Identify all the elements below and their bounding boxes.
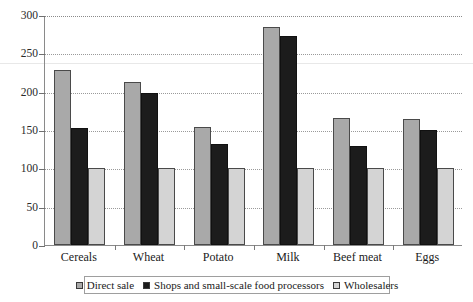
gridline-100 bbox=[45, 169, 462, 170]
bar bbox=[280, 36, 297, 245]
y-tick-label-300: 300 bbox=[4, 10, 38, 22]
legend-label: Direct sale bbox=[87, 280, 134, 291]
bar bbox=[141, 93, 158, 245]
legend-swatch-icon bbox=[76, 282, 83, 289]
bar bbox=[350, 146, 367, 245]
bar-group bbox=[333, 16, 384, 245]
legend-item[interactable]: Shops and small-scale food processors bbox=[143, 280, 324, 291]
bar bbox=[263, 27, 280, 246]
x-tick-label: Cereals bbox=[44, 250, 114, 264]
bar bbox=[71, 128, 88, 245]
bar-group bbox=[54, 16, 105, 245]
y-tick-150 bbox=[39, 131, 45, 132]
y-tick-label-50: 50 bbox=[4, 202, 38, 214]
gridline-150 bbox=[45, 131, 462, 132]
y-tick-label-200: 200 bbox=[4, 87, 38, 99]
y-tick-label-150: 150 bbox=[4, 125, 38, 137]
bar bbox=[333, 118, 350, 245]
y-tick-100 bbox=[39, 169, 45, 170]
bar bbox=[88, 168, 105, 245]
y-tick-label-250: 250 bbox=[4, 48, 38, 60]
x-tick-label: Wheat bbox=[114, 250, 184, 264]
y-tick-label-0: 0 bbox=[4, 240, 38, 252]
plot-area bbox=[44, 16, 462, 246]
bar-group bbox=[124, 16, 175, 245]
bar bbox=[211, 144, 228, 245]
bar-group bbox=[263, 16, 314, 245]
legend-item[interactable]: Wholesalers bbox=[333, 280, 398, 291]
bar bbox=[158, 168, 175, 245]
gridline-200 bbox=[45, 93, 462, 94]
bar bbox=[124, 82, 141, 245]
bar bbox=[228, 168, 245, 245]
bar-chart: 050100150200250300 CerealsWheatPotatoMil… bbox=[0, 0, 473, 302]
y-tick-0 bbox=[39, 246, 45, 247]
gridline-300 bbox=[45, 16, 462, 17]
y-tick-300 bbox=[39, 16, 45, 17]
legend-label: Shops and small-scale food processors bbox=[154, 280, 324, 291]
chart-legend: Direct saleShops and small-scale food pr… bbox=[84, 276, 390, 294]
y-tick-250 bbox=[39, 54, 45, 55]
bar bbox=[437, 168, 454, 245]
bar-group bbox=[403, 16, 454, 245]
legend-item[interactable]: Direct sale bbox=[76, 280, 134, 291]
bar bbox=[367, 168, 384, 245]
gridline-50 bbox=[45, 208, 462, 209]
legend-label: Wholesalers bbox=[344, 280, 398, 291]
x-tick-label: Beef meat bbox=[323, 250, 393, 264]
bar-group bbox=[194, 16, 245, 245]
legend-swatch-icon bbox=[143, 282, 150, 289]
bar bbox=[403, 119, 420, 245]
x-tick-label: Eggs bbox=[392, 250, 462, 264]
x-tick-label: Potato bbox=[183, 250, 253, 264]
bar bbox=[420, 130, 437, 245]
x-tick-label: Milk bbox=[253, 250, 323, 264]
legend-swatch-icon bbox=[333, 282, 340, 289]
plot-inner bbox=[45, 16, 462, 245]
y-tick-label-100: 100 bbox=[4, 163, 38, 175]
x-axis-labels: CerealsWheatPotatoMilkBeef meatEggs bbox=[44, 250, 462, 268]
y-tick-50 bbox=[39, 208, 45, 209]
bar bbox=[194, 127, 211, 245]
gridline-250 bbox=[45, 54, 462, 55]
bar bbox=[297, 168, 314, 245]
y-tick-200 bbox=[39, 93, 45, 94]
bar bbox=[54, 70, 71, 245]
y-axis-labels: 050100150200250300 bbox=[0, 16, 38, 246]
